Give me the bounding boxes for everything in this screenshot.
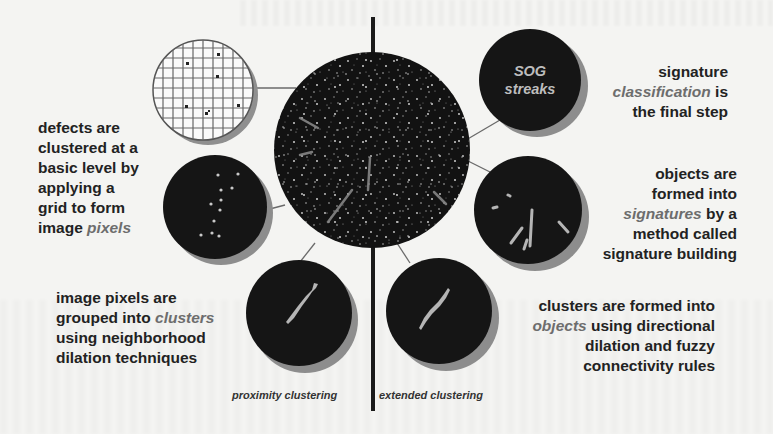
caption-line: using neighborhood bbox=[56, 328, 214, 348]
caption-text: grouped into bbox=[56, 309, 155, 326]
stage-label-proximity: proximity clustering bbox=[232, 389, 337, 401]
sog-label: SOG bbox=[490, 62, 570, 80]
caption-line: grid to form bbox=[38, 198, 139, 218]
caption-line: defects are bbox=[38, 118, 139, 138]
caption-emphasis: clusters bbox=[155, 309, 214, 326]
grid-circle bbox=[150, 40, 258, 145]
caption-line: objects using directional bbox=[500, 316, 715, 336]
caption-line: applying a bbox=[38, 178, 139, 198]
caption-line: dilation techniques bbox=[56, 348, 214, 368]
objects-circle bbox=[386, 258, 499, 371]
pixels-circle bbox=[163, 155, 273, 265]
caption-line: objects are bbox=[560, 164, 737, 184]
caption-emphasis: signatures bbox=[623, 205, 701, 222]
caption-line: signature building bbox=[560, 244, 737, 264]
caption-line: connectivity rules bbox=[500, 356, 715, 376]
caption-line: clusters are formed into bbox=[500, 296, 715, 316]
caption-text: by a bbox=[702, 205, 737, 222]
caption-line: classification is bbox=[585, 82, 728, 102]
caption-line: image pixels are bbox=[56, 288, 214, 308]
caption-emphasis: pixels bbox=[87, 219, 131, 236]
caption-emphasis: objects bbox=[532, 317, 586, 334]
caption-line: clustered at a bbox=[38, 138, 139, 158]
caption-objects: clusters are formed into objects using d… bbox=[500, 296, 715, 376]
caption-line: basic level by bbox=[38, 158, 139, 178]
caption-line: method called bbox=[560, 224, 737, 244]
caption-text: image bbox=[38, 219, 87, 236]
caption-line: signatures by a bbox=[560, 204, 737, 224]
sog-streaks-label: SOG streaks bbox=[490, 62, 570, 98]
caption-line: signature bbox=[585, 62, 728, 82]
wafer-map-circle bbox=[274, 52, 470, 248]
streaks-label: streaks bbox=[490, 80, 570, 98]
caption-line: grouped into clusters bbox=[56, 308, 214, 328]
caption-clusters: image pixels are grouped into clusters u… bbox=[56, 288, 214, 368]
caption-line: dilation and fuzzy bbox=[500, 336, 715, 356]
caption-emphasis: classification bbox=[613, 83, 711, 100]
caption-grid-pixels: defects are clustered at a basic level b… bbox=[38, 118, 139, 238]
caption-line: image pixels bbox=[38, 218, 139, 238]
caption-text: is bbox=[711, 83, 728, 100]
caption-line: the final step bbox=[585, 102, 728, 122]
caption-classification: signature classification is the final st… bbox=[585, 62, 728, 122]
caption-line: formed into bbox=[560, 184, 737, 204]
caption-text: using directional bbox=[587, 317, 715, 334]
caption-signatures: objects are formed into signatures by a … bbox=[560, 164, 737, 264]
clusters-circle bbox=[246, 260, 358, 373]
stage-label-extended: extended clustering bbox=[379, 389, 483, 401]
